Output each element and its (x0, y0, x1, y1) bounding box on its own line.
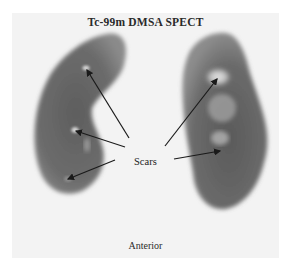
view-label: Anterior (12, 240, 279, 251)
scar-left-upper (81, 65, 91, 72)
scar-right-lower (211, 131, 229, 145)
figure-title: Tc-99m DMSA SPECT (12, 16, 279, 28)
spect-image-panel: Tc-99m DMSA SPECT Scars Anterior (12, 13, 279, 258)
scars-annotation-label: Scars (134, 156, 157, 167)
kidney-scan-image (12, 13, 279, 258)
scar-right-upper (204, 67, 232, 87)
scar-left-middle (70, 126, 80, 134)
left-kidney (35, 34, 126, 194)
